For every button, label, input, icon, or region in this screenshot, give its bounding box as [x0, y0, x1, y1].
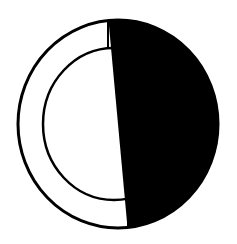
- ring-diagram: [0, 0, 237, 244]
